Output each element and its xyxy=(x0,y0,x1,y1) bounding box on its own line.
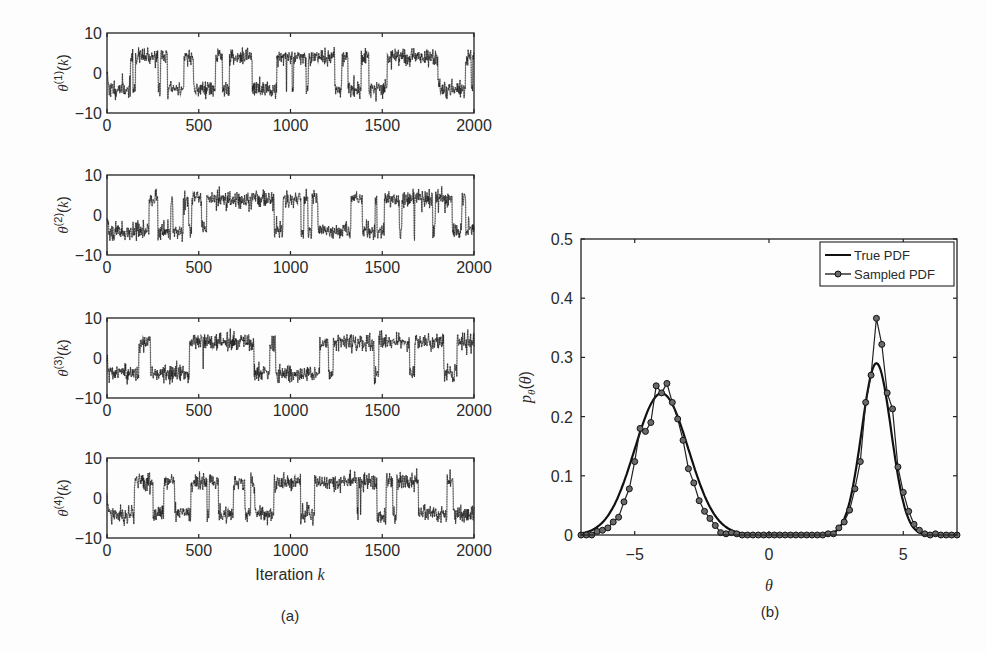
sampled-pdf-marker xyxy=(616,514,622,520)
y-tick-label: 0 xyxy=(93,350,102,367)
sampled-pdf-marker xyxy=(648,420,654,426)
y-tick-label: 0.1 xyxy=(551,468,573,485)
pdf-plot-panel: −50500.10.20.30.40.5θpθ(θ)True PDFSample… xyxy=(517,231,960,594)
sampled-pdf-marker xyxy=(626,486,632,492)
sampled-pdf-marker xyxy=(659,390,665,396)
y-tick-label: −10 xyxy=(75,105,102,122)
x-tick-label: 1500 xyxy=(364,402,400,419)
sampled-pdf-marker xyxy=(890,406,896,412)
sampled-pdf-marker xyxy=(841,519,847,525)
y-tick-label: 0.2 xyxy=(551,409,573,426)
y-axis-label: θ(2)(k) xyxy=(52,196,71,234)
sampled-pdf-marker xyxy=(916,527,922,533)
x-tick-label: 500 xyxy=(185,542,212,559)
x-tick-label: 1000 xyxy=(273,542,309,559)
axes-frame xyxy=(107,33,474,113)
sampled-pdf-marker xyxy=(884,390,890,396)
x-tick-label: 1000 xyxy=(273,259,309,276)
x-tick-label: −5 xyxy=(626,546,644,563)
x-tick-label: 1000 xyxy=(273,402,309,419)
axes-frame xyxy=(107,318,474,398)
y-tick-label: 10 xyxy=(84,310,102,327)
y-axis-label: pθ(θ) xyxy=(517,371,537,404)
sampled-pdf-marker xyxy=(906,508,912,514)
sampled-pdf-marker xyxy=(664,380,670,386)
sampled-pdf-marker xyxy=(852,486,858,492)
sampled-pdf-marker xyxy=(911,521,917,527)
x-tick-label: 2000 xyxy=(456,542,492,559)
y-tick-label: 0 xyxy=(93,490,102,507)
sampled-pdf-marker xyxy=(879,341,885,347)
y-tick-label: 0.4 xyxy=(551,290,573,307)
sampled-pdf-marker xyxy=(685,466,691,472)
x-tick-label: 2000 xyxy=(456,259,492,276)
sampled-pdf-marker xyxy=(610,519,616,525)
trace-markers xyxy=(107,329,474,385)
sampled-pdf-marker xyxy=(712,523,718,529)
trace-line xyxy=(107,468,474,525)
trace-plots-panel: 0500100015002000−10010θ(1)(k)05001000150… xyxy=(52,25,492,583)
caption-b: (b) xyxy=(761,603,779,620)
x-tick-label: 0 xyxy=(103,402,112,419)
trace-subplot-3: 0500100015002000−10010θ(3)(k) xyxy=(52,310,492,419)
x-tick-label: 0 xyxy=(103,542,112,559)
sampled-pdf-marker xyxy=(857,459,863,465)
sampled-pdf-marker xyxy=(605,525,611,531)
legend: True PDFSampled PDF xyxy=(820,242,954,286)
y-axis-label: θ(4)(k) xyxy=(52,479,71,517)
x-tick-label: 500 xyxy=(185,402,212,419)
sampled-pdf-marker xyxy=(707,515,713,521)
true-pdf-line xyxy=(581,363,957,535)
legend-marker-icon xyxy=(835,271,841,277)
y-tick-label: 10 xyxy=(84,25,102,42)
x-tick-label: 1500 xyxy=(364,259,400,276)
sampled-pdf-marker xyxy=(873,315,879,321)
sampled-pdf-marker xyxy=(836,525,842,531)
x-tick-label: 0 xyxy=(103,117,112,134)
x-tick-label: 500 xyxy=(185,259,212,276)
y-tick-label: −10 xyxy=(75,247,102,264)
trace-markers xyxy=(107,468,474,525)
trace-subplot-4: 0500100015002000−10010θ(4)(k) xyxy=(52,450,492,559)
y-tick-label: 0.5 xyxy=(551,231,573,248)
y-tick-label: 10 xyxy=(84,167,102,184)
sampled-pdf-marker xyxy=(675,416,681,422)
y-tick-label: −10 xyxy=(75,530,102,547)
sampled-pdf-marker xyxy=(691,480,697,486)
y-tick-label: 10 xyxy=(84,450,102,467)
sampled-pdf-marker xyxy=(702,508,708,514)
y-tick-label: 0 xyxy=(93,207,102,224)
y-tick-label: −10 xyxy=(75,390,102,407)
x-axis-label: Iteration k xyxy=(255,566,325,583)
sampled-pdf-marker xyxy=(621,499,627,505)
y-tick-label: 0 xyxy=(564,527,573,544)
x-tick-label: 2000 xyxy=(456,402,492,419)
x-tick-label: 0 xyxy=(103,259,112,276)
figure: 0500100015002000−10010θ(1)(k)05001000150… xyxy=(0,0,987,653)
x-axis-label: θ xyxy=(765,577,773,594)
caption-a: (a) xyxy=(281,607,299,624)
x-tick-label: 2000 xyxy=(456,117,492,134)
sampled-pdf-marker xyxy=(863,399,869,405)
y-tick-label: 0.3 xyxy=(551,349,573,366)
sampled-pdf-marker xyxy=(653,383,659,389)
sampled-pdf-marker xyxy=(632,459,638,465)
sampled-pdf-marker xyxy=(895,464,901,470)
x-tick-label: 1000 xyxy=(273,117,309,134)
sampled-pdf-marker xyxy=(680,437,686,443)
sampled-pdf-marker xyxy=(696,498,702,504)
axes-frame xyxy=(107,175,474,255)
trace-subplot-1: 0500100015002000−10010θ(1)(k) xyxy=(52,25,492,134)
sampled-pdf-marker xyxy=(642,428,648,434)
x-tick-label: 1500 xyxy=(364,542,400,559)
legend-true-pdf-label: True PDF xyxy=(854,248,910,263)
sampled-pdf-marker xyxy=(868,372,874,378)
x-tick-label: 5 xyxy=(899,546,908,563)
sampled-pdf-marker xyxy=(669,399,675,405)
x-tick-label: 1500 xyxy=(364,117,400,134)
sampled-pdf-marker xyxy=(830,531,836,537)
y-axis-label: θ(3)(k) xyxy=(52,339,71,377)
sampled-pdf-marker xyxy=(847,507,853,513)
trace-subplot-2: 0500100015002000−10010θ(2)(k) xyxy=(52,167,492,276)
x-tick-label: 0 xyxy=(765,546,774,563)
